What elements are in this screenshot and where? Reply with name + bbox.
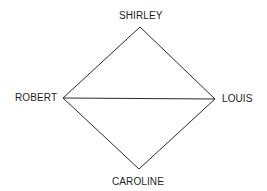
edge-shirley-louis [140, 27, 215, 99]
edge-louis-caroline [139, 99, 215, 169]
edge-robert-caroline [63, 98, 139, 169]
node-label-shirley: SHIRLEY [119, 10, 163, 22]
node-label-robert: ROBERT [15, 92, 57, 104]
edge-shirley-robert [63, 27, 140, 98]
edge-robert-louis [63, 98, 215, 99]
node-label-caroline: CAROLINE [112, 176, 164, 188]
node-label-louis: LOUIS [222, 93, 253, 105]
